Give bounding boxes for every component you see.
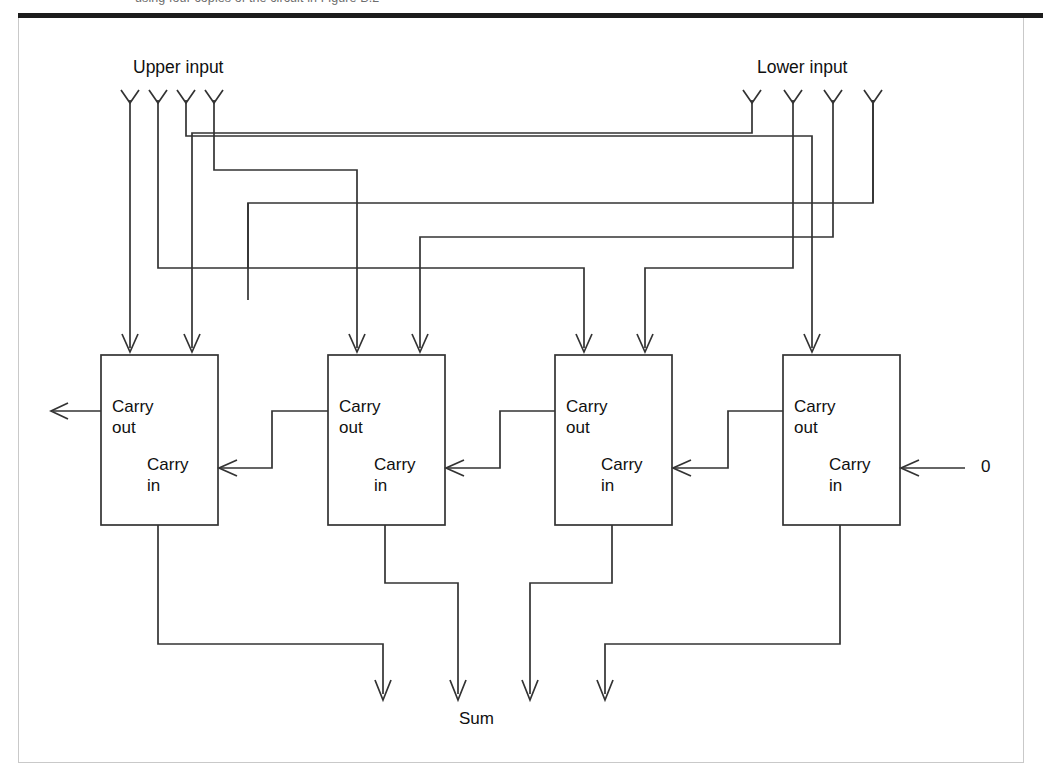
adder-3-carry-out-label: Carry out [794,397,836,438]
carry-chain-3-to-2 [673,411,783,476]
wire-upper-bit3 [214,100,365,352]
sum-label: Sum [459,709,494,729]
carry-word: Carry [339,397,381,416]
carry-word: Carry [566,397,608,416]
adder-3-carry-in-label: Carry in [829,455,871,496]
carry-in-zero-label: 0 [981,457,990,477]
figure-page: using four copies of the circuit in Figu… [0,0,1043,783]
carry-word: Carry [374,455,416,474]
carry-out-final [51,403,101,419]
carry-in-zero-wire [901,460,965,476]
out-word: out [112,418,136,437]
wire-lower-bit2 [412,100,833,352]
carry-word: Carry [794,397,836,416]
carry-chain-1-to-0 [219,411,328,476]
wire-upper-bit1 [158,100,592,352]
in-word: in [601,476,614,495]
adder-1-carry-out-label: Carry out [339,397,381,438]
adder-box-1 [328,355,445,525]
out-word: out [339,418,363,437]
adder-1-carry-in-label: Carry in [374,455,416,496]
wire-sum-bit3 [597,525,840,700]
in-word: in [374,476,387,495]
wire-lower-bit0 [184,100,752,352]
in-word: in [829,476,842,495]
adder-2-carry-out-label: Carry out [566,397,608,438]
wire-lower-bit3 [248,100,873,268]
wire-lower-bit1 [637,100,793,352]
carry-word: Carry [829,455,871,474]
carry-word: Carry [601,455,643,474]
wire-sum-bit1 [385,525,466,700]
upper-input-label: Upper input [133,57,223,77]
adder-2-carry-in-label: Carry in [601,455,643,496]
upper-input-terminals [121,90,223,103]
out-word: out [566,418,590,437]
carry-chain-2-to-1 [446,411,555,476]
lower-input-label: Lower input [757,57,847,77]
in-word: in [147,476,160,495]
wire-upper-bit2 [186,100,820,352]
carry-word: Carry [147,455,189,474]
lower-input-terminals [743,90,882,103]
adder-box-3 [783,355,900,525]
adder-box-0 [101,355,218,525]
carry-word: Carry [112,397,154,416]
wire-sum-bit2 [522,525,612,700]
wire-sum-bit0 [158,525,391,700]
adder-0-carry-out-label: Carry out [112,397,154,438]
wire-upper-bit0 [122,100,138,352]
adder-box-2 [555,355,672,525]
out-word: out [794,418,818,437]
circuit-diagram [0,0,1043,783]
adder-0-carry-in-label: Carry in [147,455,189,496]
